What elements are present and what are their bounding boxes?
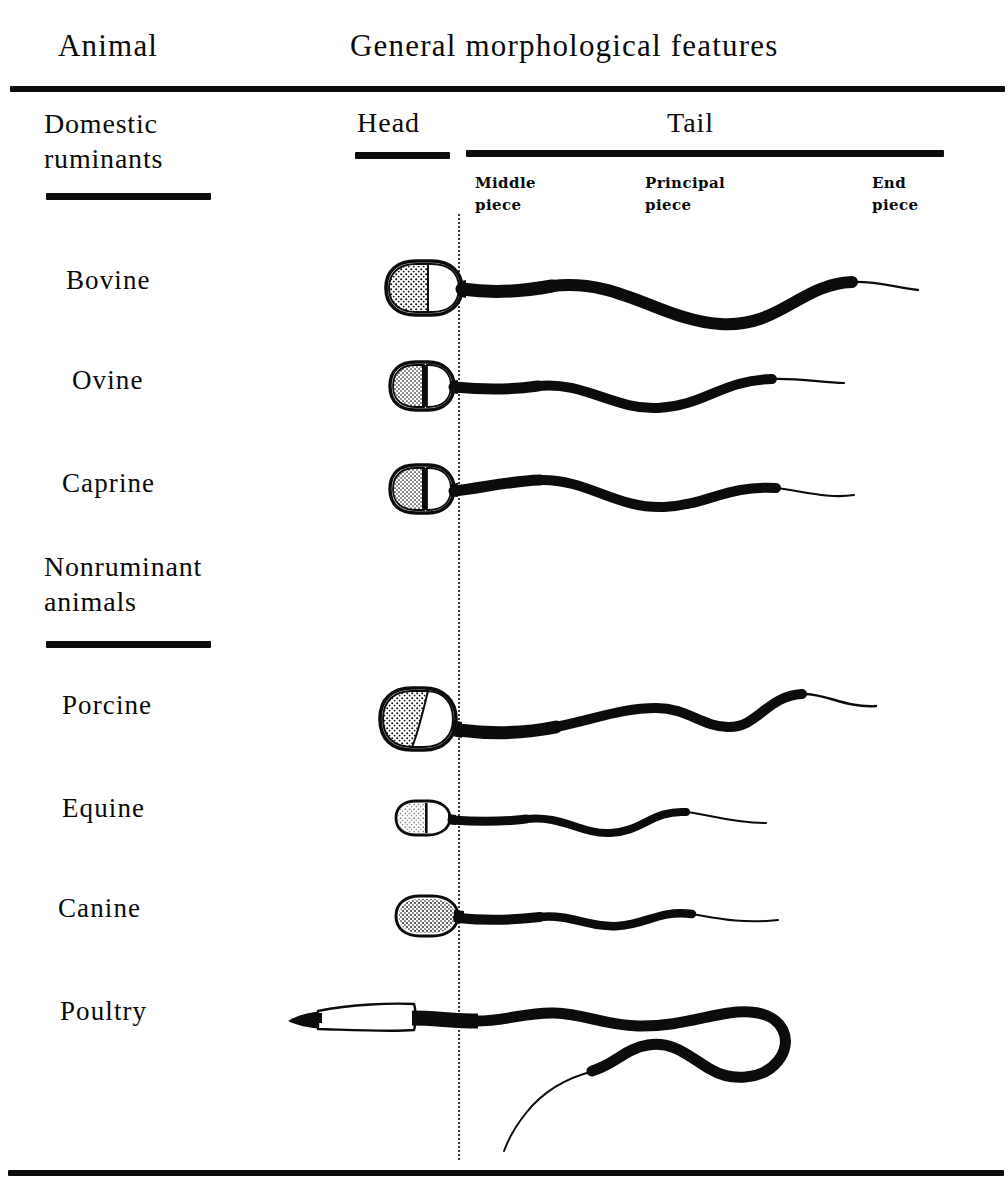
sperm-caprine-svg [378,455,888,530]
sperm-porcine-middle-piece [458,727,556,733]
sperm-equine-equatorial-band [425,803,428,833]
sperm-porcine-end-piece [802,694,876,706]
sperm-porcine-svg [366,672,906,767]
sperm-caprine-end-piece [776,488,854,496]
sperm-poultry-middle-piece [412,1018,478,1021]
sperm-porcine-principal-piece [556,694,802,727]
sperm-bovine-end-piece [852,282,918,290]
sperm-ovine-principal-piece [538,379,772,408]
sperm-illustration-poultry [282,985,962,1160]
sperm-equine-acrosome [398,803,426,833]
sperm-canine-principal-piece [540,913,692,926]
sperm-illustration-ovine [378,352,878,427]
tail-part-middle-piece-line1: Middle [475,172,536,194]
sperm-illustration-caprine [378,455,888,530]
sperm-bovine-acrosome [389,264,428,312]
sperm-equine-end-piece [686,812,766,823]
sperm-canine-end-piece [692,914,778,921]
sperm-equine-middle-piece [452,819,526,821]
subheader-head: Head [357,107,420,139]
group-heading-nonruminant-animals-line2: animals [44,584,202,619]
column-header-animal: Animal [58,28,158,64]
sperm-equine-svg [386,790,796,852]
sperm-poultry-principal-piece [476,1012,785,1077]
sperm-canine-acrosome [399,899,455,933]
group-heading-nonruminant-animals-line1: Nonruminant [44,549,202,584]
animal-label-canine: Canine [58,893,141,924]
animal-label-bovine: Bovine [66,265,151,296]
sperm-bovine-middle-piece [462,286,552,291]
animal-label-porcine: Porcine [62,690,152,721]
tail-part-principal-piece-line2: piece [645,194,725,216]
column-header-features: General morphological features [350,28,779,64]
sperm-ovine-end-piece [772,379,844,383]
tail-part-principal-piece: Principal piece [645,172,725,216]
tail-part-middle-piece: Middle piece [475,172,536,216]
rule-under-head [355,152,450,159]
sperm-illustration-porcine [366,672,906,767]
animal-label-equine: Equine [62,793,145,824]
animal-label-caprine: Caprine [62,468,155,499]
sperm-caprine-acrosome [393,468,424,510]
rule-figure-bottom [8,1170,1004,1176]
sperm-poultry-head [318,1004,416,1031]
sperm-bovine-principal-piece [552,282,852,324]
group-heading-nonruminant-animals: Nonruminant animals [44,549,202,619]
sperm-canine-middle-piece [458,917,540,920]
tail-part-end-piece: End piece [872,172,918,216]
tail-part-end-piece-line2: piece [872,194,918,216]
sperm-poultry-end-piece [504,1071,594,1151]
sperm-illustration-bovine [370,248,940,338]
sperm-ovine-middle-piece [454,386,538,389]
sperm-bovine-svg [370,248,940,338]
sperm-canine-svg [386,886,806,948]
sperm-poultry-svg [282,985,962,1160]
tail-part-principal-piece-line1: Principal [645,172,725,194]
sperm-ovine-svg [378,352,878,427]
animal-label-ovine: Ovine [72,365,143,396]
rule-under-domestic-ruminants [46,193,211,200]
sperm-caprine-middle-piece [454,480,540,491]
group-heading-domestic-ruminants-line2: ruminants [44,141,163,176]
sperm-illustration-equine [386,790,796,852]
sperm-equine-principal-piece [526,812,686,833]
figure-page: Animal General morphological features He… [0,0,1008,1201]
subheader-tail: Tail [667,107,714,139]
rule-header-top [10,86,1005,92]
sperm-illustration-canine [386,886,806,948]
rule-under-tail [466,150,944,157]
sperm-caprine-principal-piece [540,480,776,507]
tail-part-end-piece-line1: End [872,172,918,194]
group-heading-domestic-ruminants-line1: Domestic [44,106,163,141]
rule-under-nonruminant-animals [46,641,211,648]
group-heading-domestic-ruminants: Domestic ruminants [44,106,163,176]
animal-label-poultry: Poultry [60,996,147,1027]
sperm-ovine-acrosome [393,365,424,407]
tail-part-middle-piece-line2: piece [475,194,536,216]
